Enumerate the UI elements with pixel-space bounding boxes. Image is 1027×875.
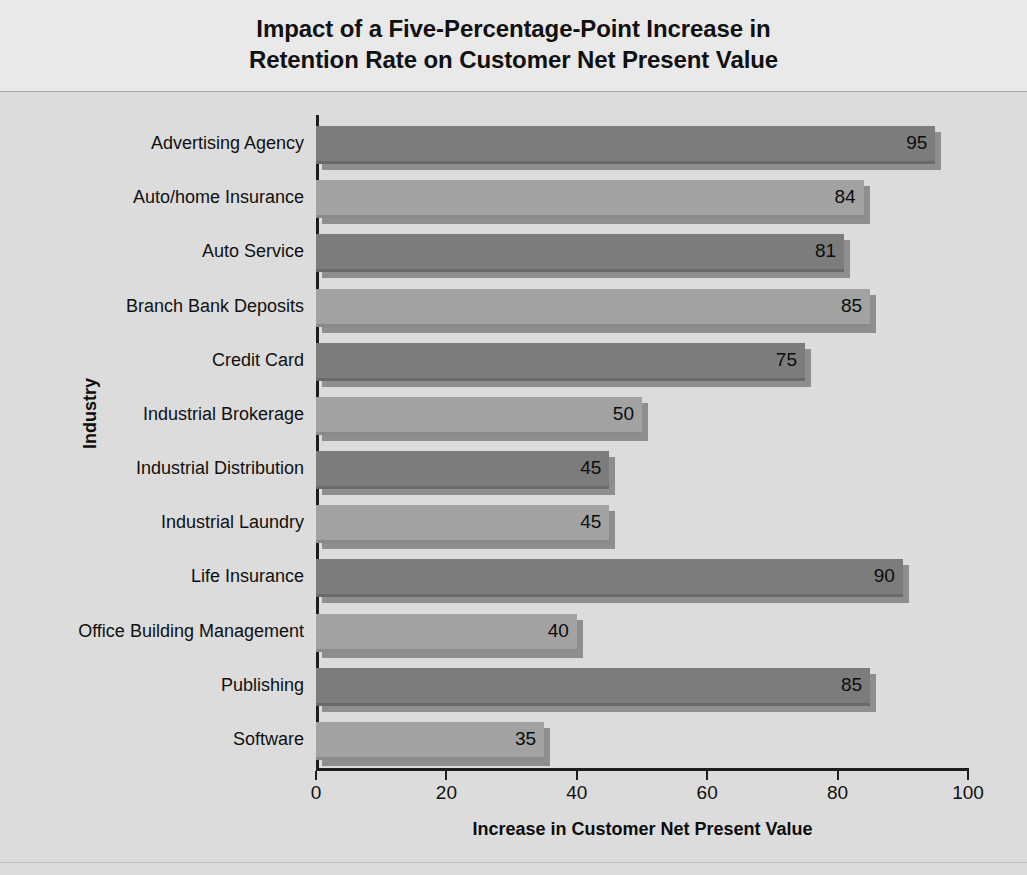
bar-value-label: 84 bbox=[820, 186, 856, 208]
bar[interactable] bbox=[316, 559, 903, 597]
category-label: Industrial Laundry bbox=[4, 512, 304, 533]
category-label: Advertising Agency bbox=[4, 133, 304, 154]
bar[interactable] bbox=[316, 397, 642, 435]
bar-value-label: 81 bbox=[800, 240, 836, 262]
category-label: Industrial Brokerage bbox=[4, 404, 304, 425]
category-label: Industrial Distribution bbox=[4, 458, 304, 479]
x-axis-tick-label-40: 40 bbox=[547, 782, 607, 804]
figure-bottom-rule bbox=[0, 862, 1027, 863]
category-label: Auto/home Insurance bbox=[4, 187, 304, 208]
bar[interactable] bbox=[316, 668, 870, 706]
bar[interactable] bbox=[316, 234, 844, 272]
x-axis-line bbox=[316, 768, 969, 771]
chart-title: Impact of a Five-Percentage-Point Increa… bbox=[0, 13, 1027, 75]
x-axis-tick-label-20: 20 bbox=[416, 782, 476, 804]
x-axis-tick-80 bbox=[837, 771, 839, 780]
bar-value-label: 40 bbox=[533, 620, 569, 642]
x-axis-tick-label-60: 60 bbox=[677, 782, 737, 804]
bar[interactable] bbox=[316, 126, 935, 164]
chart-title-line-1: Impact of a Five-Percentage-Point Increa… bbox=[0, 13, 1027, 44]
bar-value-label: 45 bbox=[565, 511, 601, 533]
x-axis-title: Increase in Customer Net Present Value bbox=[316, 819, 969, 840]
bar[interactable] bbox=[316, 289, 870, 327]
bar-value-label: 75 bbox=[761, 349, 797, 371]
x-axis-tick-0 bbox=[315, 771, 317, 780]
bar-value-label: 45 bbox=[565, 457, 601, 479]
bar[interactable] bbox=[316, 343, 805, 381]
category-label: Credit Card bbox=[4, 350, 304, 371]
category-label: Life Insurance bbox=[4, 566, 304, 587]
bar-value-label: 95 bbox=[891, 132, 927, 154]
x-axis-tick-40 bbox=[576, 771, 578, 780]
chart-title-line-2: Retention Rate on Customer Net Present V… bbox=[0, 44, 1027, 75]
x-axis-tick-label-80: 80 bbox=[808, 782, 868, 804]
bar-value-label: 85 bbox=[826, 295, 862, 317]
category-label: Branch Bank Deposits bbox=[4, 296, 304, 317]
category-label: Auto Service bbox=[4, 241, 304, 262]
x-axis-tick-100 bbox=[967, 771, 969, 780]
x-axis-tick-label-0: 0 bbox=[286, 782, 346, 804]
x-axis-tick-label-100: 100 bbox=[938, 782, 998, 804]
bar-value-label: 50 bbox=[598, 403, 634, 425]
bar[interactable] bbox=[316, 180, 864, 218]
x-axis-tick-60 bbox=[706, 771, 708, 780]
bar-value-label: 90 bbox=[859, 565, 895, 587]
category-label: Office Building Management bbox=[4, 621, 304, 642]
bar-value-label: 35 bbox=[500, 728, 536, 750]
category-label: Publishing bbox=[4, 675, 304, 696]
chart-plot-panel: 020406080100 Increase in Customer Net Pr… bbox=[0, 93, 1027, 863]
chart-title-panel: Impact of a Five-Percentage-Point Increa… bbox=[0, 0, 1027, 92]
chart-figure: Impact of a Five-Percentage-Point Increa… bbox=[0, 0, 1027, 875]
x-axis-tick-20 bbox=[445, 771, 447, 780]
category-label: Software bbox=[4, 729, 304, 750]
bar-value-label: 85 bbox=[826, 674, 862, 696]
